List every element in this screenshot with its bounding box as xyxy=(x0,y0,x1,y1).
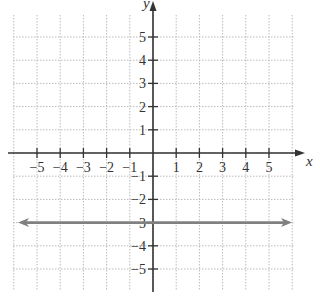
y-tick-label: 2 xyxy=(139,100,146,115)
x-tick-label: −5 xyxy=(30,160,45,175)
y-axis-arrow-icon xyxy=(150,1,157,11)
y-tick-label: 1 xyxy=(139,123,146,138)
x-tick-label: 5 xyxy=(266,160,273,175)
y-tick-label: 5 xyxy=(139,30,146,45)
x-tick-label: −4 xyxy=(53,160,68,175)
x-axis-label: x xyxy=(305,153,313,169)
coordinate-plane: xy−5−4−3−2−11234554321−1−2−3−4−5 xyxy=(0,0,320,305)
x-axis-arrow-icon xyxy=(295,150,305,157)
y-tick-label: −5 xyxy=(131,262,146,277)
y-tick-label: −4 xyxy=(131,239,146,254)
y-tick-label: 4 xyxy=(139,53,146,68)
x-tick-label: −2 xyxy=(99,160,114,175)
y-tick-label: −2 xyxy=(131,192,146,207)
x-tick-label: −3 xyxy=(76,160,91,175)
x-tick-label: 2 xyxy=(196,160,203,175)
graph-svg: xy−5−4−3−2−11234554321−1−2−3−4−5 xyxy=(0,0,320,305)
x-tick-label: 3 xyxy=(219,160,226,175)
x-tick-label: 4 xyxy=(242,160,249,175)
y-tick-label: 3 xyxy=(139,76,146,91)
y-tick-label: −1 xyxy=(131,169,146,184)
x-tick-label: 1 xyxy=(173,160,180,175)
y-axis-label: y xyxy=(141,0,150,11)
